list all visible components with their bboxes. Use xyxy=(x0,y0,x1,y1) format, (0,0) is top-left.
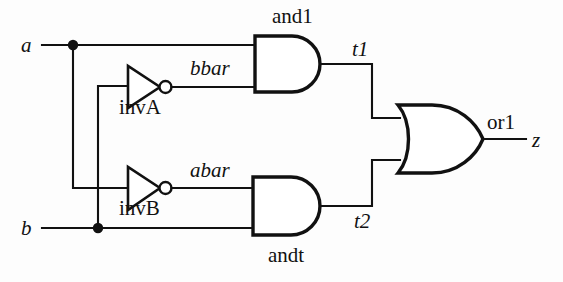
gate-label-andt: andt xyxy=(268,245,304,266)
andt-gate-body xyxy=(253,177,320,235)
input-port-label-a: a xyxy=(21,35,32,56)
invA-bubble-icon xyxy=(160,81,172,93)
or1-gate-body xyxy=(398,105,483,173)
gate-label-and1: and1 xyxy=(272,6,313,27)
circuit-schematic-svg xyxy=(0,0,563,282)
junction-dot-a xyxy=(68,40,78,50)
net-label-bbar: bbar xyxy=(190,58,230,79)
wire-t1 xyxy=(320,64,400,118)
invB-bubble-icon xyxy=(160,182,172,194)
output-port-label-z: z xyxy=(532,130,540,151)
net-label-t1: t1 xyxy=(352,39,368,60)
gate-label-invB: invB xyxy=(119,198,160,219)
schematic-canvas: a b z and1 andt invA invB or1 bbar abar … xyxy=(0,0,563,282)
and1-gate-body xyxy=(255,36,320,92)
junction-dot-b xyxy=(93,223,103,233)
gate-label-or1: or1 xyxy=(487,112,515,133)
input-port-label-b: b xyxy=(21,218,32,239)
net-label-abar: abar xyxy=(190,160,230,181)
gate-label-invA: invA xyxy=(119,97,161,118)
net-label-t2: t2 xyxy=(354,211,370,232)
wire-t2 xyxy=(320,160,400,206)
